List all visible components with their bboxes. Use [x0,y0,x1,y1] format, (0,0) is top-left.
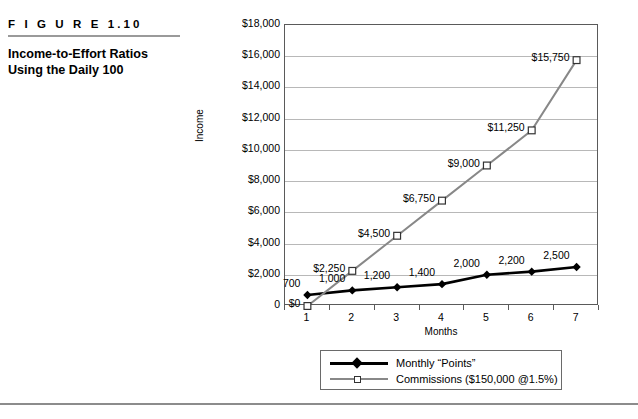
x-axis-title: Months [284,326,598,337]
x-axis-tick-label: 5 [471,311,501,323]
legend-label-commissions: Commissions ($150,000 @1.5%) [396,373,558,385]
figure-title-line-1: Income-to-Effort Ratios [8,47,198,63]
legend-label-points: Monthly “Points” [396,357,475,369]
square-marker-icon [354,376,361,383]
data-point-diamond[interactable] [528,267,536,275]
data-point-square[interactable] [394,232,401,239]
data-point-square[interactable] [349,267,356,274]
x-axis-tick-label: 1 [291,311,321,323]
data-point-diamond[interactable] [572,263,580,271]
data-label: 2,000 [454,257,480,269]
x-axis-tickmark [419,305,420,310]
page-bottom-rule [0,403,638,405]
y-axis-tick-label: $16,000 [218,48,280,60]
series-line-commissions [307,60,576,306]
data-label: $11,250 [488,121,525,133]
x-axis-tick-label: 2 [336,311,366,323]
y-axis-tick-label: 0 [218,298,280,310]
x-axis-tick-label: 7 [561,311,591,323]
data-point-square[interactable] [528,127,535,134]
legend-item-points[interactable]: Monthly “Points” [330,356,475,370]
y-axis-tick-label: $6,000 [218,204,280,216]
x-axis-tickmark [374,305,375,310]
legend-swatch-points [330,357,388,369]
y-axis-tick-label: $2,000 [218,267,280,279]
data-label: $15,750 [532,51,570,63]
line-chart: Income 0$2,000$4,000$6,000$8,000$10,000$… [198,8,630,338]
x-axis-tickmark [284,305,285,310]
caption-divider [8,35,180,37]
data-point-square[interactable] [573,57,580,64]
data-point-diamond[interactable] [393,283,401,291]
data-point-diamond[interactable] [303,291,311,299]
figure-title: Income-to-Effort Ratios Using the Daily … [8,47,198,78]
data-label: 1,200 [364,269,390,281]
data-label: $0 [289,297,301,309]
data-label: 1,000 [319,272,345,284]
data-label: 2,500 [543,249,569,261]
figure-number: F I G U R E 1.10 [8,18,198,30]
data-point-diamond[interactable] [483,271,491,279]
y-axis-tick-label: $12,000 [218,111,280,123]
data-point-square[interactable] [439,197,446,204]
y-axis-tick-label: $4,000 [218,236,280,248]
x-axis-tickmark [329,305,330,310]
data-point-diamond[interactable] [438,280,446,288]
data-label: $9,000 [448,157,480,169]
y-axis-tick-label: $18,000 [218,17,280,29]
data-point-square[interactable] [483,162,490,169]
y-axis-title: Income [194,109,205,142]
y-axis-tick-label: $10,000 [218,142,280,154]
data-point-diamond[interactable] [348,286,356,294]
data-label: 1,400 [409,266,435,278]
x-axis-tickmark [598,305,599,310]
x-axis-tick-label: 4 [426,311,456,323]
data-label: $4,500 [358,227,390,239]
figure-title-line-2: Using the Daily 100 [8,63,198,79]
x-axis-tickmark [553,305,554,310]
figure-caption: F I G U R E 1.10 Income-to-Effort Ratios… [8,18,198,78]
x-axis-tickmark [508,305,509,310]
diamond-marker-icon [351,357,362,368]
legend-item-commissions[interactable]: Commissions ($150,000 @1.5%) [330,372,558,386]
legend-swatch-commissions [330,373,388,385]
chart-legend: Monthly “Points” Commissions ($150,000 @… [320,350,562,390]
x-axis-tick-label: 6 [516,311,546,323]
data-point-square[interactable] [304,303,311,310]
y-axis-tick-labels: 0$2,000$4,000$6,000$8,000$10,000$12,000$… [214,8,280,338]
y-axis-tick-label: $8,000 [218,173,280,185]
data-label: $2,250 [313,262,345,274]
y-axis-tick-label: $14,000 [218,79,280,91]
data-label: 2,200 [498,254,524,266]
data-label: 700 [283,277,301,289]
x-axis-tickmark [463,305,464,310]
x-axis-tick-label: 3 [381,311,411,323]
data-label: $6,750 [403,192,435,204]
